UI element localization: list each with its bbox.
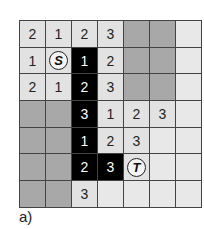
empty-cell	[176, 154, 201, 180]
path-cell: 2	[72, 74, 97, 100]
target-marker-icon: T	[127, 158, 146, 177]
figure-caption: a)	[19, 208, 32, 225]
obstacle-cell	[20, 181, 45, 207]
start-marker-icon: S	[49, 51, 68, 70]
empty-cell	[176, 181, 201, 207]
distance-cell: 3	[98, 21, 123, 47]
start-cell: S	[46, 48, 71, 74]
empty-cell	[150, 128, 175, 154]
empty-cell	[176, 101, 201, 127]
empty-cell	[176, 128, 201, 154]
empty-cell	[150, 154, 175, 180]
maze-grid: 21231S122123312312323T3	[19, 20, 202, 208]
target-cell: T	[124, 154, 149, 180]
empty-cell	[176, 74, 201, 100]
distance-cell: 3	[150, 101, 175, 127]
empty-cell	[124, 181, 149, 207]
path-cell: 3	[98, 154, 123, 180]
obstacle-cell	[124, 48, 149, 74]
obstacle-cell	[124, 21, 149, 47]
obstacle-cell	[20, 128, 45, 154]
distance-cell: 2	[124, 101, 149, 127]
distance-cell: 1	[98, 101, 123, 127]
path-cell: 3	[72, 101, 97, 127]
empty-cell	[150, 181, 175, 207]
distance-cell: 2	[72, 21, 97, 47]
obstacle-cell	[20, 154, 45, 180]
distance-cell: 1	[46, 21, 71, 47]
obstacle-cell	[150, 74, 175, 100]
distance-cell: 1	[20, 48, 45, 74]
obstacle-cell	[46, 154, 71, 180]
distance-cell: 2	[20, 21, 45, 47]
path-cell: 2	[72, 154, 97, 180]
distance-cell: 2	[20, 74, 45, 100]
empty-cell	[176, 48, 201, 74]
distance-cell: 1	[46, 74, 71, 100]
distance-cell: 3	[98, 74, 123, 100]
distance-cell: 3	[72, 181, 97, 207]
obstacle-cell	[124, 74, 149, 100]
obstacle-cell	[46, 101, 71, 127]
empty-cell	[176, 21, 201, 47]
path-cell: 1	[72, 48, 97, 74]
distance-cell: 3	[124, 128, 149, 154]
obstacle-cell	[46, 181, 71, 207]
obstacle-cell	[150, 48, 175, 74]
obstacle-cell	[20, 101, 45, 127]
path-cell: 1	[72, 128, 97, 154]
distance-cell: 2	[98, 48, 123, 74]
obstacle-cell	[150, 21, 175, 47]
obstacle-cell	[46, 128, 71, 154]
distance-cell: 2	[98, 128, 123, 154]
empty-cell	[98, 181, 123, 207]
